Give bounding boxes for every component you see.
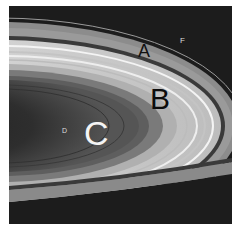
saturn-rings-photo: F A B C D: [9, 6, 232, 224]
ring-label-c: C: [84, 116, 109, 150]
ring-label-d: D: [62, 127, 67, 134]
ring-label-a: A: [138, 42, 150, 60]
ring-label-b: B: [150, 84, 170, 114]
ring-label-f: F: [180, 37, 185, 45]
rings-graphic: [9, 6, 232, 224]
